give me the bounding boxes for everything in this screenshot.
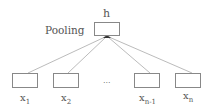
input-label-xn: xn <box>183 91 193 105</box>
edge-xn <box>109 37 192 73</box>
pooling-label: Pooling <box>45 25 84 35</box>
input-label-x1: x1 <box>20 93 30 107</box>
input-node-x2 <box>53 73 79 88</box>
input-node-x1 <box>12 73 38 88</box>
edge-xn-1 <box>108 37 150 73</box>
edge-x2 <box>68 37 106 73</box>
input-label-xn-1: xn-1 <box>139 93 156 107</box>
edge-x1 <box>28 37 105 73</box>
input-node-xn <box>175 73 201 88</box>
output-label: h <box>103 9 110 19</box>
output-node-h <box>94 22 120 36</box>
input-node-xn-1 <box>134 73 160 88</box>
pooling-diagram: h Pooling ... x1 x2 xn-1 xn <box>0 0 218 110</box>
input-label-x2: x2 <box>61 93 71 107</box>
ellipsis: ... <box>103 76 111 86</box>
